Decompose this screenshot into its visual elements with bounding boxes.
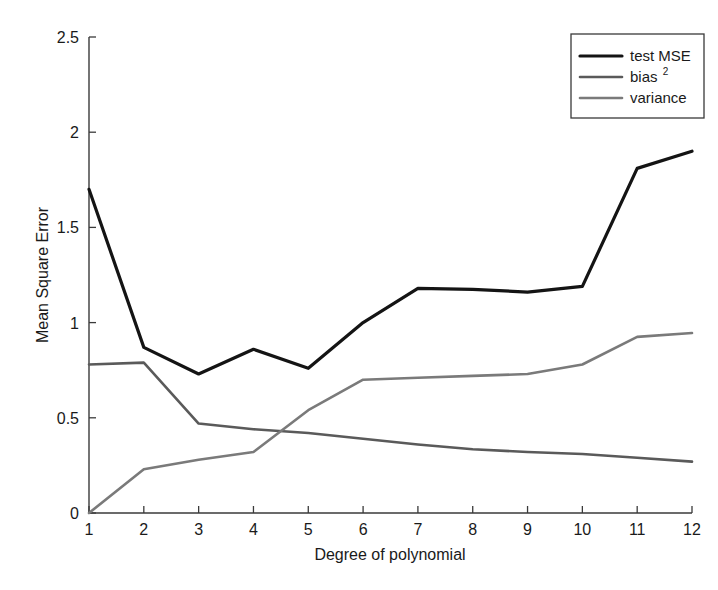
legend-label-variance: variance [630,89,687,106]
y-tick-label: 2 [70,124,79,141]
x-tick-label: 11 [629,521,646,538]
chart-figure: 123456789101112 00.511.522.5 Degree of p… [0,0,718,590]
x-tick-label: 10 [573,521,591,538]
legend-superscript-bias: 2 [663,66,669,77]
legend-label-test-mse: test MSE [630,47,691,64]
x-tick-label: 1 [85,521,94,538]
x-tick-label: 9 [523,521,532,538]
x-tick-label: 3 [194,521,203,538]
y-tick-label: 1 [70,315,79,332]
y-tick-label: 2.5 [57,29,79,46]
y-tick-label: 1.5 [57,219,79,236]
x-axis-title: Degree of polynomial [314,546,465,563]
chart-legend[interactable]: test MSEbias2variance [571,34,704,118]
x-tick-label: 6 [359,521,368,538]
x-tick-label: 2 [139,521,148,538]
y-axis-title: Mean Square Error [34,206,51,343]
x-tick-label: 5 [304,521,313,538]
x-tick-label: 12 [683,521,701,538]
y-tick-label: 0.5 [57,410,79,427]
legend-label-bias: bias [630,68,658,85]
bias-variance-line-chart: 123456789101112 00.511.522.5 Degree of p… [0,0,718,590]
x-tick-label: 4 [249,521,258,538]
x-tick-label: 7 [413,521,422,538]
x-tick-label: 8 [468,521,477,538]
y-tick-label: 0 [70,505,79,522]
